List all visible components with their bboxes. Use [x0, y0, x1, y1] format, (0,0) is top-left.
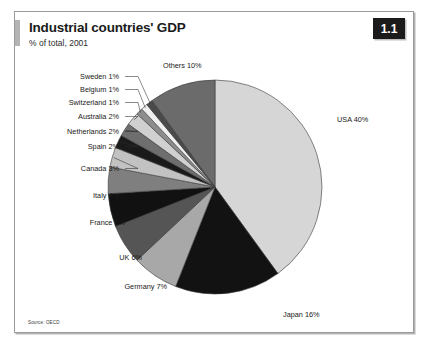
- slice-label-others: Others 10%: [163, 61, 202, 70]
- slice-label-sweden: Sweden 1%: [80, 72, 119, 81]
- slice-label-uk: UK 6%: [119, 253, 142, 262]
- slice-label-netherlands: Netherlands 2%: [67, 127, 119, 136]
- slice-label-belgium: Belgium 1%: [80, 85, 119, 94]
- slice-label-australia: Australia 2%: [78, 112, 119, 121]
- leader-line-switzerland: [125, 103, 140, 113]
- pie-chart: USA 40%Japan 16%Germany 7%UK 6%France 5%…: [15, 12, 415, 334]
- slice-label-germany: Germany 7%: [124, 282, 167, 291]
- slice-label-italy: Italy 4%: [93, 191, 119, 200]
- slice-label-usa: USA 40%: [337, 115, 369, 124]
- figure-panel: Industrial countries' GDP % of total, 20…: [14, 11, 414, 333]
- slice-label-spain: Spain 2%: [88, 142, 120, 151]
- slice-label-canada: Canada 3%: [81, 164, 120, 173]
- pie-chart-svg: USA 40%Japan 16%Germany 7%UK 6%France 5%…: [15, 12, 415, 334]
- leader-line-sweden: [125, 77, 150, 104]
- slice-label-switzerland: Switzerland 1%: [69, 98, 120, 107]
- leader-line-belgium: [125, 90, 145, 108]
- slice-label-japan: Japan 16%: [283, 310, 320, 319]
- slice-label-france: France 5%: [90, 218, 126, 227]
